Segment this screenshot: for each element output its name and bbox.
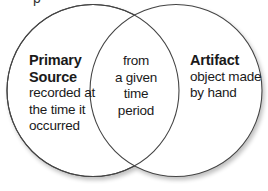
- primary-source-description-line: recorded at: [29, 85, 109, 102]
- intersection-line: from: [104, 53, 168, 70]
- intersection-line: period: [104, 103, 168, 120]
- intersection-line: time: [104, 86, 168, 103]
- intersection-line: a given: [104, 70, 168, 87]
- clipped-text-fragment: p: [33, 0, 41, 6]
- artifact-description-line: by hand: [190, 85, 265, 102]
- primary-source-title-line: Source: [29, 69, 109, 86]
- primary-source-title-line: Primary: [29, 52, 109, 69]
- primary-source-description-line: occurred: [29, 118, 109, 135]
- intersection-label: from a given time period: [104, 53, 168, 119]
- artifact-title-line: Artifact: [190, 52, 265, 69]
- artifact-description-line: object made: [190, 69, 265, 86]
- primary-source-label: Primary Source recorded at the time it o…: [29, 52, 109, 135]
- venn-diagram: p Primary Source recorded at the time it…: [0, 0, 268, 191]
- artifact-label: Artifact object made by hand: [190, 52, 265, 102]
- primary-source-description-line: the time it: [29, 102, 109, 119]
